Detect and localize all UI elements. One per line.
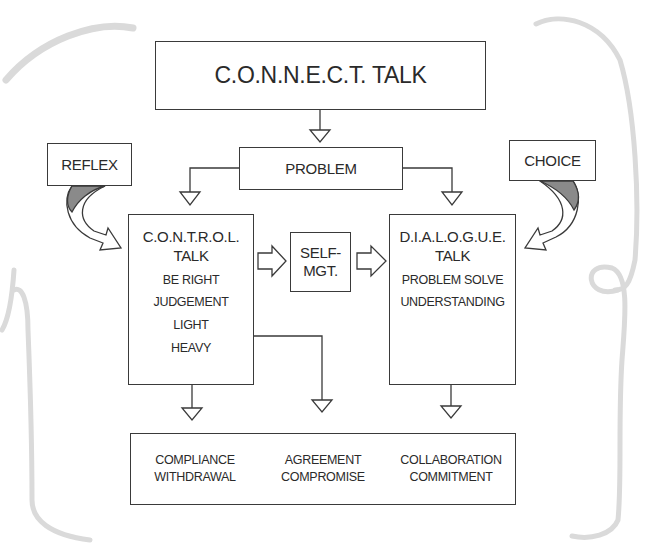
outcome-collaboration: COLLABORATION — [388, 452, 515, 469]
diagram-title: C.O.N.N.E.C.T. TALK — [215, 62, 427, 89]
block-arrow-right-icon — [258, 246, 286, 276]
dialogue-item-understanding: UNDERSTANDING — [400, 295, 504, 309]
outcome-compliance: COMPLIANCE — [132, 452, 259, 469]
dialogue-heading: D.I.A.L.O.G.U.E. — [399, 227, 505, 246]
outcome-dialogue: COLLABORATION COMMITMENT — [388, 452, 515, 486]
decorative-swirl-left — [2, 26, 133, 540]
outcome-compromise: COMPROMISE — [260, 469, 387, 486]
diagram-canvas: C.O.N.N.E.C.T. TALK PROBLEM REFLEX CHOIC… — [0, 0, 651, 548]
outcome-agreement: AGREEMENT — [260, 452, 387, 469]
block-arrow-right-icon — [357, 246, 386, 276]
decorative-swirl-right — [536, 19, 637, 537]
reflex-box: REFLEX — [47, 143, 132, 186]
reflex-label: REFLEX — [61, 156, 118, 173]
control-item-be-right: BE RIGHT — [163, 273, 220, 287]
problem-box: PROBLEM — [239, 147, 403, 190]
outcomes-box: COMPLIANCE WITHDRAWAL AGREEMENT COMPROMI… — [130, 433, 516, 505]
arrow-down-icon — [310, 130, 330, 142]
outcome-commitment: COMMITMENT — [388, 469, 515, 486]
outcome-middle: AGREEMENT COMPROMISE — [260, 452, 387, 486]
outcome-withdrawal: WITHDRAWAL — [132, 469, 259, 486]
control-talk-box: C.O.N.T.R.O.L. TALK BE RIGHT JUDGEMENT L… — [128, 214, 254, 385]
self-management-box: SELF- MGT. — [290, 232, 351, 292]
self-mgt-line2: MGT. — [303, 262, 338, 280]
dialogue-item-problem-solve: PROBLEM SOLVE — [402, 273, 503, 287]
self-mgt-line1: SELF- — [300, 244, 341, 262]
dialogue-heading-talk: TALK — [435, 246, 470, 265]
control-heading-talk: TALK — [173, 246, 208, 265]
problem-label: PROBLEM — [285, 160, 356, 177]
choice-label: CHOICE — [524, 152, 581, 169]
dialogue-talk-box: D.I.A.L.O.G.U.E. TALK PROBLEM SOLVE UNDE… — [389, 214, 516, 385]
control-heading: C.O.N.T.R.O.L. — [143, 227, 240, 246]
outcome-control: COMPLIANCE WITHDRAWAL — [132, 452, 259, 486]
choice-box: CHOICE — [509, 140, 596, 181]
control-item-judgement: JUDGEMENT — [153, 295, 228, 309]
control-item-heavy: HEAVY — [171, 341, 211, 355]
control-item-light: LIGHT — [173, 318, 208, 332]
title-box: C.O.N.N.E.C.T. TALK — [155, 41, 486, 110]
